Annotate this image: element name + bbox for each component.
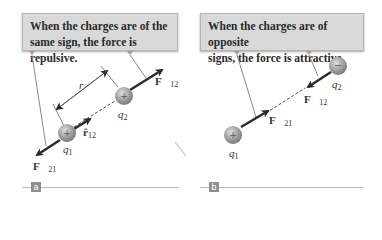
charge-q2-a: + (115, 87, 133, 105)
label-q2-a: q2 (118, 108, 128, 122)
cursor-smudge (175, 142, 186, 156)
label-r12: r̂12 (83, 126, 96, 140)
label-F21-b: F⃗21 (269, 114, 292, 128)
charge-q2-b: − (329, 57, 347, 75)
label-F12-b: F⃗12 (304, 93, 327, 107)
label-q1-a: q1 (63, 143, 73, 157)
svg-text:−: − (334, 60, 342, 71)
baseline-rule-a (22, 187, 179, 188)
label-q1-b: q1 (229, 147, 239, 161)
svg-text:+: + (120, 91, 128, 101)
label-q2-b: q2 (332, 78, 342, 92)
charge-q1-a: + (58, 124, 76, 142)
panel-tag-a: a (31, 182, 41, 192)
label-F12-a: F⃗12 (155, 75, 178, 89)
force-arrow-F21-a (37, 140, 60, 155)
distance-r-dimension (53, 66, 118, 126)
label-F21-a: F⃗21 (33, 160, 56, 174)
charge-q1-b: + (224, 126, 242, 144)
svg-text:+: + (229, 130, 237, 140)
force-arrow-F12-b (308, 72, 331, 87)
svg-text:+: + (63, 128, 71, 138)
panel-tag-b: b (209, 182, 219, 192)
baseline-rule-b (200, 187, 364, 188)
label-r: r (79, 79, 83, 91)
